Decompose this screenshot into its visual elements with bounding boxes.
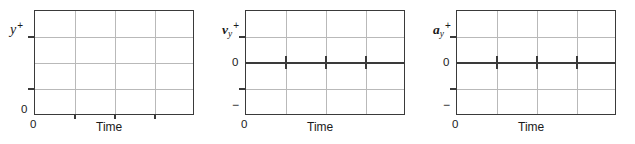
x-axis-origin-label: 0 <box>241 119 247 131</box>
x-axis-origin-label: 0 <box>452 119 458 131</box>
zero-line-tick <box>365 56 367 69</box>
gridline-horizontal <box>457 89 615 90</box>
y-axis-tick-label-zero: 0 <box>232 57 238 69</box>
plot-frame-position <box>34 10 194 115</box>
y-axis-label-position: y+ <box>10 21 23 37</box>
y-axis-minus-label: − <box>443 99 450 111</box>
gridline-horizontal <box>35 89 193 90</box>
y-axis-tick-label-zero: 0 <box>443 57 449 69</box>
graph-panel-position: y+ 0 0 Time <box>0 0 211 144</box>
y-axis-tick-label-zero: 0 <box>21 104 27 116</box>
zero-line-tick <box>536 56 538 69</box>
y-axis-label-velocity: vy+ <box>222 21 239 40</box>
zero-line-tick <box>285 56 287 69</box>
gridline-horizontal <box>246 37 404 38</box>
gridline-vertical <box>75 11 76 114</box>
zero-line-tick <box>496 56 498 69</box>
plot-frame-acceleration <box>456 10 616 115</box>
x-axis-title: Time <box>307 121 333 133</box>
x-axis-title: Time <box>96 121 122 133</box>
gridline-vertical <box>155 11 156 114</box>
zero-line-tick <box>325 56 327 69</box>
gridline-horizontal <box>246 89 404 90</box>
kinematics-graphs-figure: y+ 0 0 Time vy+ 0 − <box>0 0 635 144</box>
x-axis-origin-label: 0 <box>30 119 36 131</box>
x-axis-tick <box>74 114 76 119</box>
graph-panel-velocity: vy+ 0 − 0 Time <box>211 0 422 144</box>
gridline-horizontal <box>35 63 193 64</box>
graph-panel-acceleration: ay+ 0 − 0 Time <box>422 0 633 144</box>
y-axis-label-acceleration: ay+ <box>433 21 451 40</box>
x-axis-tick <box>154 114 156 119</box>
x-axis-title: Time <box>518 121 544 133</box>
gridline-vertical <box>115 11 116 114</box>
plot-frame-velocity <box>245 10 405 115</box>
x-axis-tick <box>114 114 116 119</box>
gridline-horizontal <box>457 37 615 38</box>
y-axis-minus-label: − <box>232 99 239 111</box>
gridline-horizontal <box>35 37 193 38</box>
zero-line-tick <box>576 56 578 69</box>
